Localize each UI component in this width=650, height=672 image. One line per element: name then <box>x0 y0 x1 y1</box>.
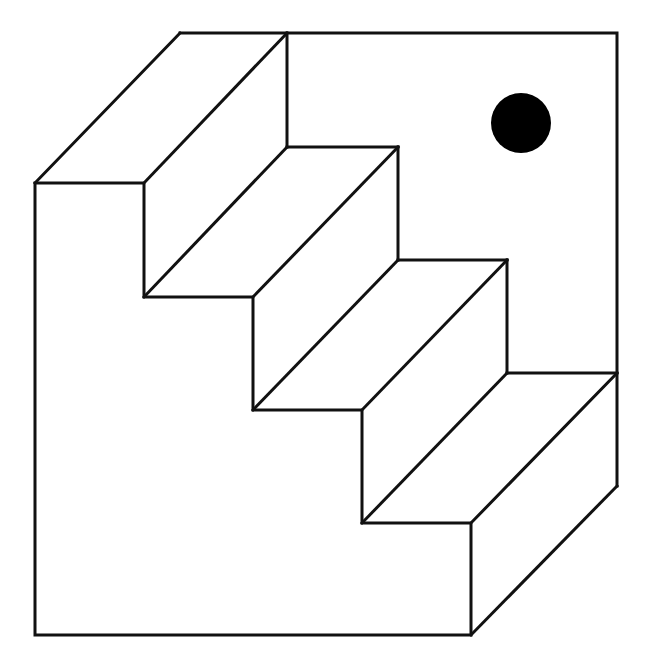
back-risers <box>287 33 507 373</box>
depth-edge-line <box>253 260 398 410</box>
depth-edge-line <box>362 260 507 410</box>
back-treads <box>287 147 617 373</box>
depth-edge-line <box>253 147 398 297</box>
depth-edge-line <box>362 373 507 523</box>
staircase-drawing <box>0 0 650 672</box>
depth-edge-line <box>35 33 180 183</box>
depth-edge-line <box>144 33 287 183</box>
black-dot <box>491 93 551 153</box>
depth-edge-line <box>144 147 287 297</box>
staircase-illusion-figure <box>0 0 650 672</box>
depth-edge-line <box>471 373 617 523</box>
depth-edge-line <box>471 486 617 635</box>
